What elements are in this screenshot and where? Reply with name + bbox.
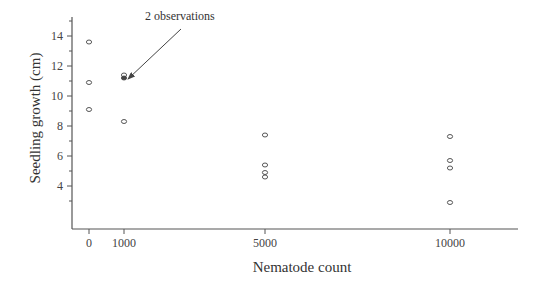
x-tick-label: 1000 [112, 236, 136, 250]
data-point [262, 133, 267, 137]
y-tick-label: 10 [51, 89, 63, 103]
data-point [447, 135, 452, 139]
data-point [86, 108, 91, 112]
data-point [262, 175, 267, 179]
y-axis-title: Seedling growth (cm) [27, 53, 44, 184]
axis-labels: Seedling growth (cm) Nematode count [27, 53, 352, 275]
x-tick-label: 10000 [435, 236, 465, 250]
data-point [121, 76, 126, 80]
x-axis-title: Nematode count [253, 259, 353, 275]
data-point [86, 40, 91, 44]
scatter-chart: 46810121401000500010000 Seedling growth … [0, 0, 545, 283]
data-points [86, 40, 452, 205]
data-point [262, 171, 267, 175]
y-tick-label: 12 [51, 59, 63, 73]
annotation-label: 2 observations [145, 9, 215, 23]
annotation-arrow [128, 29, 181, 79]
y-tick-label: 8 [57, 119, 63, 133]
y-tick-label: 4 [57, 179, 63, 193]
data-point [262, 163, 267, 167]
axes: 46810121401000500010000 [51, 17, 518, 250]
data-point [86, 81, 91, 85]
x-tick-label: 0 [86, 236, 92, 250]
data-point [447, 159, 452, 163]
annotations: 2 observations [128, 9, 215, 79]
data-point [121, 120, 126, 124]
x-tick-label: 5000 [253, 236, 277, 250]
y-tick-label: 14 [51, 29, 63, 43]
data-point [447, 166, 452, 170]
y-tick-label: 6 [57, 149, 63, 163]
data-point [447, 201, 452, 205]
